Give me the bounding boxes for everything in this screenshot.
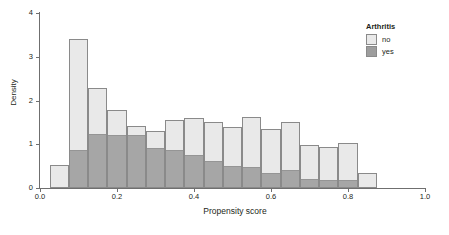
histogram-bar-yes	[127, 135, 146, 188]
y-tick-mark	[36, 57, 39, 58]
x-tick-label: 0.0	[25, 193, 55, 201]
histogram-bar-yes	[242, 167, 261, 188]
y-tick-mark	[36, 13, 39, 14]
y-axis-title: Density	[9, 63, 18, 123]
legend-label-no: no	[382, 35, 390, 44]
legend-item-yes[interactable]: yes	[366, 46, 446, 57]
histogram-bar-yes	[281, 170, 300, 188]
histogram-bar-yes	[338, 180, 357, 188]
y-axis-line	[39, 12, 40, 189]
legend-label-yes: yes	[382, 47, 394, 56]
x-axis-line	[39, 188, 426, 189]
histogram-bar-yes	[300, 179, 319, 188]
histogram-bar-yes	[223, 166, 242, 188]
histogram-bar-no	[50, 165, 69, 188]
histogram-bar-yes	[88, 134, 107, 188]
legend-item-no[interactable]: no	[366, 34, 446, 45]
chart-figure: 01234 0.00.20.40.60.81.0 Density Propens…	[0, 0, 449, 235]
x-tick-label: 1.0	[410, 193, 440, 201]
y-tick-label: 3	[11, 53, 33, 61]
legend-swatch-yes	[366, 46, 377, 57]
x-tick-label: 0.4	[179, 193, 209, 201]
legend-title: Arthritis	[366, 22, 446, 31]
histogram-bar-yes	[107, 135, 126, 188]
y-tick-label: 4	[11, 9, 33, 17]
y-tick-mark	[36, 144, 39, 145]
x-axis-title: Propensity score	[120, 206, 350, 216]
legend-swatch-no	[366, 34, 377, 45]
x-tick-label: 0.2	[102, 193, 132, 201]
y-tick-label: 1	[11, 140, 33, 148]
histogram-bar-no	[358, 173, 377, 188]
legend: Arthritis no yes	[366, 22, 446, 58]
y-tick-label: 0	[11, 184, 33, 192]
histogram-bar-yes	[204, 161, 223, 188]
y-tick-mark	[36, 101, 39, 102]
histogram-bar-yes	[165, 150, 184, 188]
histogram-bar-yes	[261, 173, 280, 188]
x-tick-label: 0.6	[256, 193, 286, 201]
histogram-bar-yes	[146, 148, 165, 188]
histogram-bar-yes	[319, 180, 338, 188]
x-tick-label: 0.8	[333, 193, 363, 201]
histogram-bar-yes	[69, 150, 88, 188]
y-tick-mark	[36, 188, 39, 189]
histogram-bar-yes	[184, 155, 203, 188]
